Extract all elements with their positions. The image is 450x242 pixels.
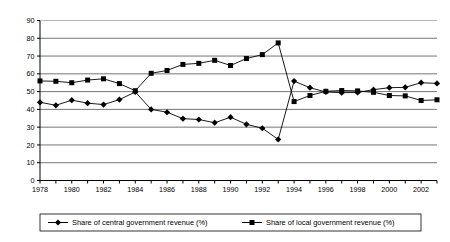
data-point-local-6 <box>133 88 138 93</box>
y-tick-label-30: 30 <box>27 123 35 132</box>
y-tick-label-40: 40 <box>27 105 35 114</box>
chart-container: 0102030405060708090197819801982198419861… <box>0 0 450 242</box>
x-tick-label-1986: 1986 <box>159 185 175 194</box>
data-point-local-24 <box>419 98 424 103</box>
x-tick-label-2002: 2002 <box>413 185 429 194</box>
y-tick-label-80: 80 <box>27 34 35 43</box>
x-tick-label-1988: 1988 <box>191 185 207 194</box>
x-tick-label-1984: 1984 <box>127 185 143 194</box>
x-axis-ticks: 1978198019821984198619881990199219941996… <box>32 181 437 195</box>
data-point-local-2 <box>69 80 74 85</box>
x-tick-label-1980: 1980 <box>64 185 80 194</box>
data-point-local-9 <box>180 62 185 67</box>
data-point-local-21 <box>371 90 376 95</box>
data-point-local-14 <box>260 52 265 57</box>
data-point-local-3 <box>85 78 90 83</box>
x-tick-label-1982: 1982 <box>96 185 112 194</box>
data-point-local-22 <box>387 93 392 98</box>
data-point-local-7 <box>149 71 154 76</box>
legend: Share of central government revenue (%)S… <box>40 214 421 231</box>
x-tick-label-1990: 1990 <box>223 185 239 194</box>
y-tick-label-50: 50 <box>27 87 35 96</box>
data-point-local-20 <box>355 88 360 93</box>
data-point-local-11 <box>212 58 217 63</box>
data-point-local-18 <box>323 89 328 94</box>
data-point-local-5 <box>117 81 122 86</box>
y-axis-ticks: 0102030405060708090 <box>27 16 41 185</box>
legend-label-central: Share of central government revenue (%) <box>72 218 208 227</box>
y-tick-label-60: 60 <box>27 69 35 78</box>
data-point-local-19 <box>339 88 344 93</box>
data-point-local-23 <box>403 93 408 98</box>
data-point-local-17 <box>307 93 312 98</box>
x-tick-label-2000: 2000 <box>381 185 397 194</box>
y-tick-label-90: 90 <box>27 16 35 25</box>
x-tick-label-1996: 1996 <box>318 185 334 194</box>
y-tick-label-10: 10 <box>27 158 35 167</box>
data-point-local-8 <box>165 68 170 73</box>
x-tick-label-1998: 1998 <box>350 185 366 194</box>
y-tick-label-0: 0 <box>31 176 35 185</box>
plot-area <box>40 21 437 181</box>
y-tick-label-20: 20 <box>27 141 35 150</box>
x-tick-label-1994: 1994 <box>286 185 302 194</box>
data-point-local-10 <box>196 61 201 66</box>
data-point-local-12 <box>228 63 233 68</box>
y-tick-label-70: 70 <box>27 52 35 61</box>
data-point-local-13 <box>244 56 249 61</box>
data-point-local-16 <box>292 99 297 104</box>
legend-marker-square-icon <box>250 220 255 225</box>
data-point-local-4 <box>101 76 106 81</box>
data-point-local-25 <box>435 97 440 102</box>
data-point-local-1 <box>53 79 58 84</box>
x-tick-label-1992: 1992 <box>254 185 270 194</box>
x-tick-label-1978: 1978 <box>32 185 48 194</box>
line-chart: 0102030405060708090197819801982198419861… <box>0 0 450 242</box>
legend-label-local: Share of local government revenue (%) <box>266 218 395 227</box>
data-point-local-0 <box>38 78 43 83</box>
data-point-local-15 <box>276 40 281 45</box>
